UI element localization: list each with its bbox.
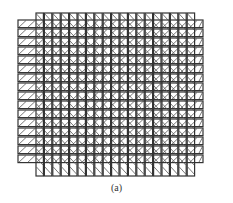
grid-svg bbox=[0, 0, 233, 203]
figure-caption: (a) bbox=[0, 182, 233, 193]
woven-grid-diagram bbox=[0, 0, 233, 203]
